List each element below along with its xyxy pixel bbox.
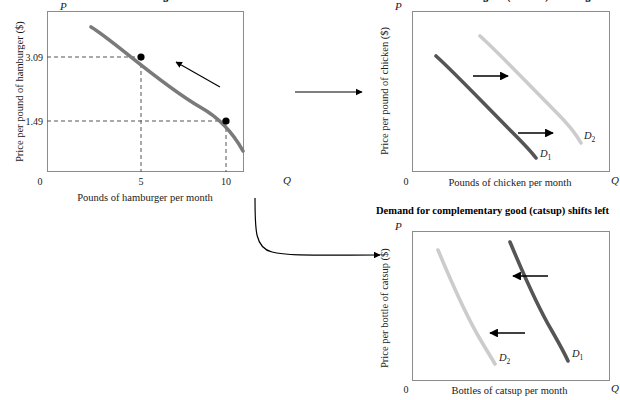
hamburger-plot-svg	[0, 0, 300, 210]
hamburger-point-b	[222, 117, 229, 124]
catsup-plot-svg	[370, 200, 619, 400]
chicken-demand-curve-d1	[436, 56, 536, 158]
chicken-curve-label-d1: D1	[540, 148, 551, 162]
chicken-demand-curve-d2	[480, 36, 581, 143]
chicken-d1-sub: 1	[548, 153, 552, 162]
catsup-curve-label-d2: D2	[499, 352, 510, 366]
panel-hamburger: Price of hamburger rises Price per pound…	[0, 0, 300, 210]
connector-to-chicken	[290, 80, 380, 110]
catsup-d1-sub: 1	[580, 353, 584, 362]
chicken-d1-letter: D	[540, 148, 548, 159]
connector-to-catsup-line	[255, 198, 380, 255]
hamburger-movement-arrow	[176, 62, 220, 87]
catsup-d2-sub: 2	[507, 357, 511, 366]
hamburger-demand-curve	[91, 27, 243, 151]
catsup-d2-letter: D	[499, 352, 507, 363]
catsup-d1-letter: D	[572, 348, 580, 359]
catsup-curve-label-d1: D1	[572, 348, 583, 362]
chicken-d2-letter: D	[584, 130, 592, 141]
panel-catsup: Demand for complementary good (catsup) s…	[370, 200, 619, 400]
chicken-plot-svg	[370, 0, 619, 200]
panel-chicken: Demand for substitute good (chicken) shi…	[370, 0, 619, 200]
catsup-demand-curve-d1	[510, 242, 568, 361]
hamburger-point-a	[137, 53, 144, 60]
chicken-d2-sub: 2	[592, 135, 596, 144]
chicken-curve-label-d2: D2	[584, 130, 595, 144]
catsup-demand-curve-d2	[438, 250, 495, 364]
